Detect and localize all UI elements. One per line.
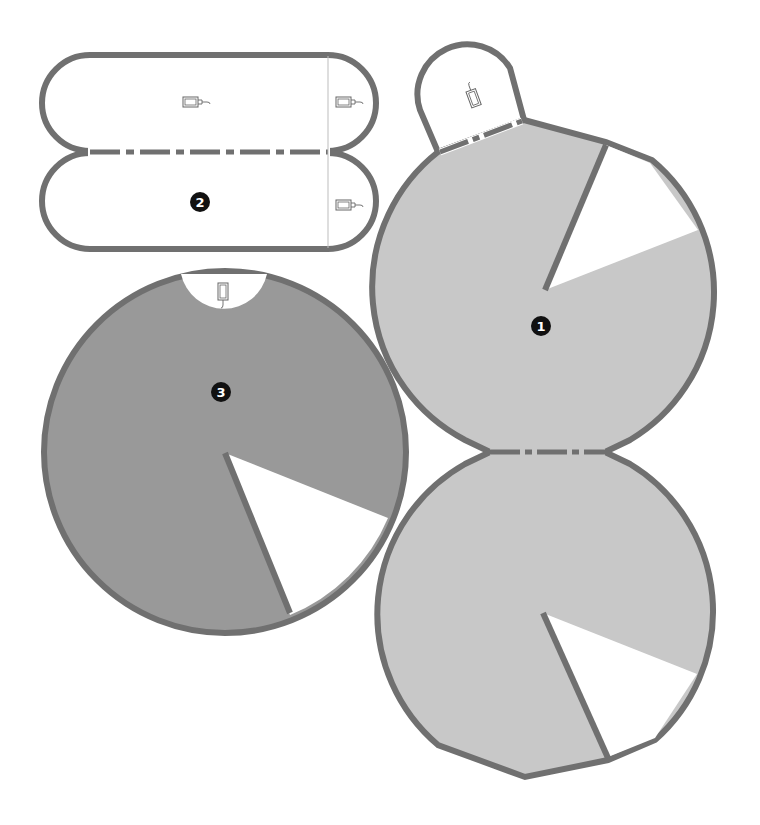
piece-1-body (372, 120, 714, 452)
piece-2-badge: 2 (190, 192, 210, 212)
piece-1-badge: 1 (531, 316, 551, 336)
piece-3-badge: 3 (211, 382, 231, 402)
piece-3-body (44, 271, 406, 633)
papercraft-template: 2 1 (0, 0, 760, 825)
svg-text:2: 2 (195, 195, 204, 210)
piece-3: 3 (44, 271, 406, 633)
piece-1: 1 (372, 44, 714, 452)
piece-2: 2 (42, 55, 376, 249)
svg-text:1: 1 (536, 319, 545, 334)
piece-2-top-strip (42, 55, 376, 151)
svg-text:3: 3 (216, 385, 225, 400)
piece-1-copy (377, 452, 713, 777)
